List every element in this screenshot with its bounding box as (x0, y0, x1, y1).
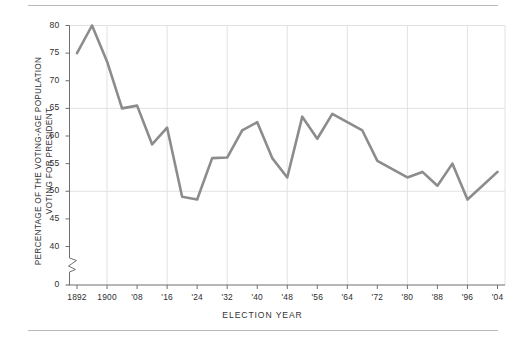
y-tick-label: 65 (36, 102, 60, 112)
y-tick-label: 55 (36, 158, 60, 168)
y-tick-label: 50 (36, 185, 60, 195)
x-tick-label: '04 (477, 292, 517, 302)
gridlines (70, 26, 506, 286)
y-tick-label: 80 (36, 20, 60, 30)
y-tick-label: 75 (36, 47, 60, 57)
x-axis-title: ELECTION YEAR (0, 310, 525, 320)
y-tick-label: 45 (36, 213, 60, 223)
chart-figure: PERCENTAGE OF THE VOTING-AGE POPULATION … (0, 0, 525, 343)
y-tick-label: 70 (36, 75, 60, 85)
y-axis-break-symbol (69, 258, 77, 272)
axes (66, 26, 506, 290)
y-tick-label: 0 (36, 279, 60, 289)
top-divider-rule (28, 5, 498, 6)
bottom-divider-rule (28, 330, 498, 331)
y-tick-label: 60 (36, 130, 60, 140)
y-tick-label: 40 (36, 241, 60, 251)
